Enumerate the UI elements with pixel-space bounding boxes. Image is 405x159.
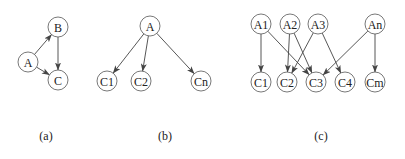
- node-label: Cm: [366, 76, 384, 90]
- graph-diagram: BAC (a) AC1C2Cn (b) A1A2A3AnC1C2C3C4Cm (…: [0, 0, 405, 159]
- node-c2: C2: [131, 71, 151, 91]
- node-b: B: [48, 17, 68, 37]
- edge-a-to-c1: [113, 34, 144, 73]
- node-a: A: [140, 16, 160, 36]
- node-label: A2: [283, 18, 298, 32]
- node-label: A: [146, 20, 155, 34]
- edge-a-to-c2: [143, 36, 149, 71]
- node-cm: Cm: [365, 72, 385, 92]
- node-label: C2: [134, 75, 148, 89]
- caption-a: (a): [39, 129, 52, 143]
- node-label: C1: [254, 76, 268, 90]
- node-c1: C1: [251, 72, 271, 92]
- node-an: An: [365, 14, 385, 34]
- node-a3: A3: [308, 14, 328, 34]
- panel-a: BAC (a): [18, 17, 68, 143]
- node-label: C2: [280, 76, 294, 90]
- edge-a-to-cn: [157, 33, 194, 73]
- node-a2: A2: [280, 14, 300, 34]
- node-c3: C3: [306, 72, 326, 92]
- node-label: C3: [309, 76, 323, 90]
- node-label: A3: [311, 18, 326, 32]
- edge-a-to-c: [37, 67, 50, 75]
- node-label: Cn: [194, 75, 208, 89]
- node-c2: C2: [277, 72, 297, 92]
- node-a1: A1: [251, 14, 271, 34]
- node-label: B: [54, 21, 62, 35]
- node-cn: Cn: [191, 71, 211, 91]
- panel-c: A1A2A3AnC1C2C3C4Cm (c): [251, 14, 385, 143]
- edge-a2-to-c2: [288, 34, 290, 72]
- edge-a-to-b: [35, 35, 52, 55]
- node-c1: C1: [97, 71, 117, 91]
- node-label: C: [54, 74, 62, 88]
- node-label: An: [368, 18, 383, 32]
- node-label: C4: [338, 76, 352, 90]
- node-label: C1: [100, 75, 114, 89]
- edge-an-to-c3: [323, 31, 368, 75]
- node-c4: C4: [335, 72, 355, 92]
- caption-b: (b): [158, 129, 172, 143]
- node-c: C: [48, 70, 68, 90]
- node-label: A1: [254, 18, 269, 32]
- node-label: A: [24, 56, 33, 70]
- node-a: A: [18, 52, 38, 72]
- caption-c: (c): [314, 129, 327, 143]
- panel-b: AC1C2Cn (b): [97, 16, 211, 143]
